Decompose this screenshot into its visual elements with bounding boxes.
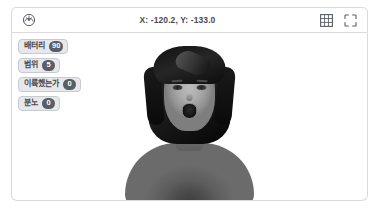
variable-monitor-label: 분노 [24, 99, 38, 107]
variable-monitor-label: 배터리 [24, 42, 45, 50]
app-root: X: -120.2, Y: -133.0 [0, 0, 379, 209]
variable-monitor-value: 0 [63, 79, 76, 90]
variable-monitor[interactable]: 범위5 [18, 58, 60, 73]
fullscreen-icon[interactable] [343, 13, 358, 28]
variable-monitor[interactable]: 배터리90 [18, 39, 68, 54]
variable-monitor-label: 이륙했는가 [24, 80, 59, 88]
variable-monitor[interactable]: 분노0 [18, 96, 60, 111]
sprite-eye-left [173, 85, 183, 90]
variable-monitor-value: 90 [49, 41, 63, 52]
sprite-torso [125, 143, 254, 201]
speedometer-icon[interactable] [21, 13, 36, 28]
person-sprite[interactable] [121, 33, 258, 201]
variable-monitor-value: 0 [42, 98, 55, 109]
sprite-nose [187, 93, 193, 101]
header-right-group [319, 13, 358, 28]
stage-canvas[interactable]: 배터리90범위5이륙했는가0분노0 [11, 33, 368, 201]
mouse-coordinates-readout: X: -120.2, Y: -133.0 [36, 15, 319, 25]
variable-monitor-list: 배터리90범위5이륙했는가0분노0 [18, 39, 81, 111]
grid-icon[interactable] [319, 13, 334, 28]
sprite-eye-right [197, 85, 207, 90]
sprite-mouth [182, 103, 198, 119]
stage-header-bar: X: -120.2, Y: -133.0 [11, 7, 368, 33]
variable-monitor-value: 5 [42, 60, 55, 71]
variable-monitor[interactable]: 이륙했는가0 [18, 77, 81, 92]
variable-monitor-label: 범위 [24, 61, 38, 69]
header-left-group [21, 13, 36, 28]
